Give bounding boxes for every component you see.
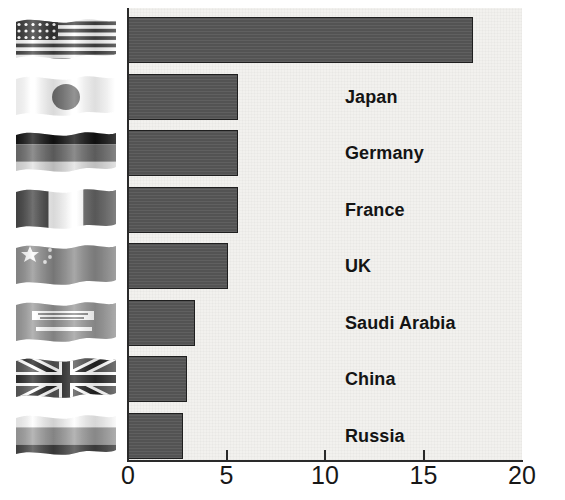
- flag-japan-icon: [14, 71, 118, 123]
- bar[interactable]: [128, 356, 187, 402]
- x-tick-label: 10: [311, 463, 339, 488]
- bar-row: [128, 356, 522, 402]
- bar-row: [128, 187, 522, 233]
- flag-china-icon: [14, 240, 118, 292]
- flag-france-icon: [14, 184, 118, 236]
- x-tick-label: 20: [508, 463, 536, 488]
- x-tick-label: 5: [220, 463, 234, 488]
- bar[interactable]: [128, 243, 228, 289]
- flag-saudi-arabia-icon: [14, 297, 118, 349]
- flag-column: [0, 0, 124, 500]
- y-axis-line: [127, 8, 129, 462]
- flag-germany-icon: [14, 127, 118, 179]
- bar[interactable]: [128, 130, 238, 176]
- bar-row: [128, 300, 522, 346]
- bar[interactable]: [128, 74, 238, 120]
- flag-uk-icon: [14, 353, 118, 405]
- bar[interactable]: [128, 300, 195, 346]
- bar-row: [128, 130, 522, 176]
- flag-us-icon: [14, 14, 118, 66]
- plot-area: USJapanGermanyFranceUKSaudi ArabiaChinaR…: [128, 8, 522, 460]
- x-tick-mark: [226, 450, 228, 461]
- bar-row: [128, 243, 522, 289]
- x-tick-mark: [423, 450, 425, 461]
- bar-row: [128, 17, 522, 63]
- bar[interactable]: [128, 17, 473, 63]
- flag-russia-icon: [14, 410, 118, 462]
- bar[interactable]: [128, 413, 183, 459]
- x-tick-mark: [324, 450, 326, 461]
- bar[interactable]: [128, 187, 238, 233]
- bar-chart: USJapanGermanyFranceUKSaudi ArabiaChinaR…: [0, 0, 565, 500]
- x-tick-label: 0: [121, 463, 135, 488]
- bar-row: [128, 74, 522, 120]
- x-tick-label: 15: [410, 463, 438, 488]
